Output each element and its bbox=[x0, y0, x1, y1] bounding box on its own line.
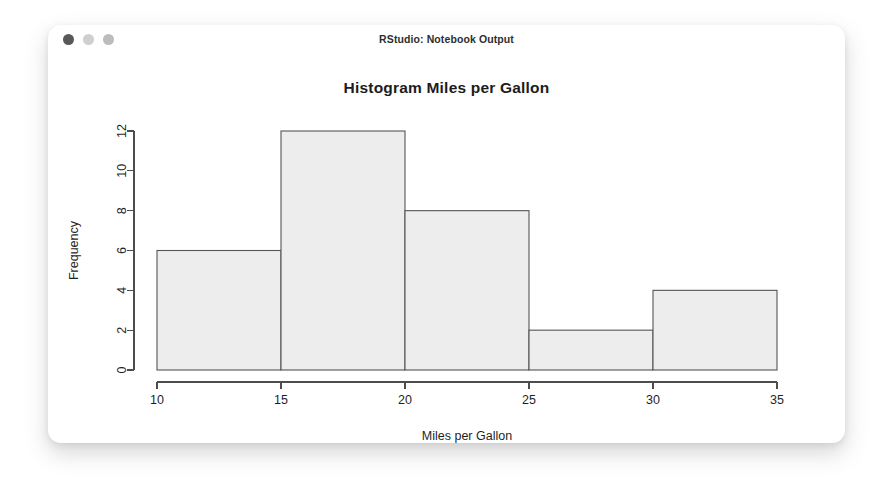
histogram-bar bbox=[653, 290, 777, 370]
y-axis-label: Frequency bbox=[67, 220, 81, 280]
y-axis: 024681012 bbox=[115, 124, 134, 373]
window-title: RStudio: Notebook Output bbox=[48, 33, 845, 45]
histogram-bar bbox=[281, 131, 405, 370]
y-tick-label: 8 bbox=[115, 207, 129, 214]
x-axis: 101520253035 bbox=[150, 382, 784, 407]
notebook-output-window: RStudio: Notebook Output Histogram Miles… bbox=[48, 25, 845, 443]
y-tick-label: 2 bbox=[115, 327, 129, 334]
histogram-bar bbox=[405, 211, 529, 370]
x-tick-label: 35 bbox=[770, 393, 784, 407]
x-tick-label: 15 bbox=[274, 393, 288, 407]
x-tick-label: 20 bbox=[398, 393, 412, 407]
y-tick-label: 6 bbox=[115, 247, 129, 254]
bars-group bbox=[157, 131, 777, 370]
x-tick-label: 30 bbox=[646, 393, 660, 407]
y-tick-label: 10 bbox=[115, 164, 129, 178]
histogram-bar bbox=[157, 251, 281, 371]
y-tick-label: 12 bbox=[115, 124, 129, 138]
plot-area: Histogram Miles per Gallon 024681012 101… bbox=[48, 57, 845, 443]
y-tick-label: 0 bbox=[115, 366, 129, 373]
x-tick-label: 10 bbox=[150, 393, 164, 407]
x-axis-label: Miles per Gallon bbox=[422, 429, 512, 443]
window-titlebar[interactable]: RStudio: Notebook Output bbox=[48, 25, 845, 57]
x-tick-label: 25 bbox=[522, 393, 536, 407]
histogram-chart: 024681012 101520253035 Frequency Miles p… bbox=[48, 57, 845, 443]
y-tick-label: 4 bbox=[115, 287, 129, 294]
histogram-bar bbox=[529, 330, 653, 370]
